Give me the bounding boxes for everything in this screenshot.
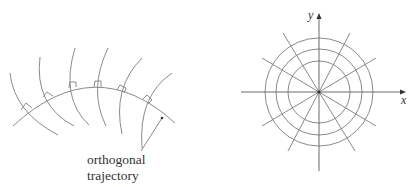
orthogonal-trajectory-figure: orthogonal trajectory — [10, 48, 175, 183]
curve-family-5 — [120, 58, 143, 134]
y-axis-arrow-icon — [317, 13, 322, 19]
orthogonal-trajectory-curve — [13, 87, 175, 126]
y-axis-label: y — [307, 8, 314, 22]
curve-family-3 — [70, 48, 89, 125]
curve-family-6 — [142, 73, 172, 148]
diagram-canvas: orthogonal trajectory x y — [0, 0, 411, 187]
pointer-dot — [161, 117, 164, 120]
origin-dot — [317, 90, 320, 93]
x-axis-label: x — [400, 93, 407, 107]
curve-family-1 — [10, 73, 58, 135]
polar-grid-figure: x y — [241, 8, 407, 171]
pointer-line — [141, 118, 162, 151]
caption-line-2: trajectory — [87, 168, 139, 183]
caption-line-1: orthogonal — [87, 152, 146, 167]
